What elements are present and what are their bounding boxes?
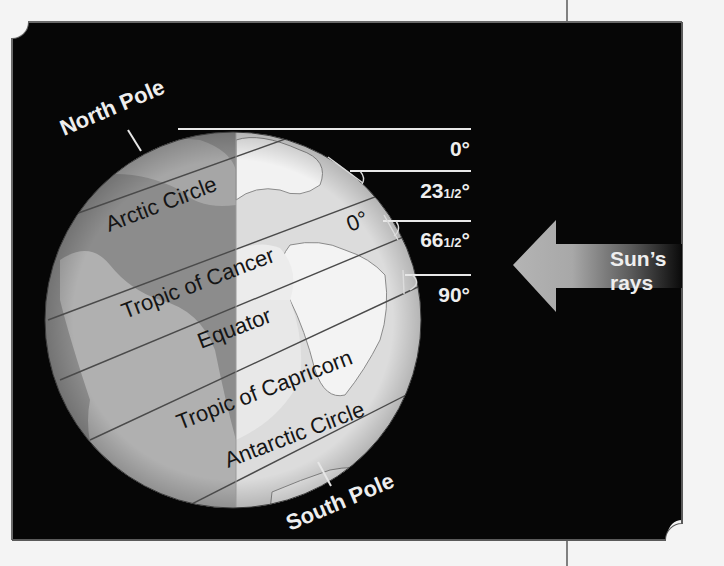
diagram-stage: North Pole South Pole Arctic Circle Trop… (0, 0, 724, 566)
angle-label-90: 90° (438, 283, 470, 306)
arrow-label-line2: rays (610, 271, 653, 294)
earth-diagram: North Pole South Pole Arctic Circle Trop… (0, 0, 724, 566)
arrow-label-line1: Sun’s (610, 247, 666, 270)
angle-label-0: 0° (450, 137, 470, 160)
